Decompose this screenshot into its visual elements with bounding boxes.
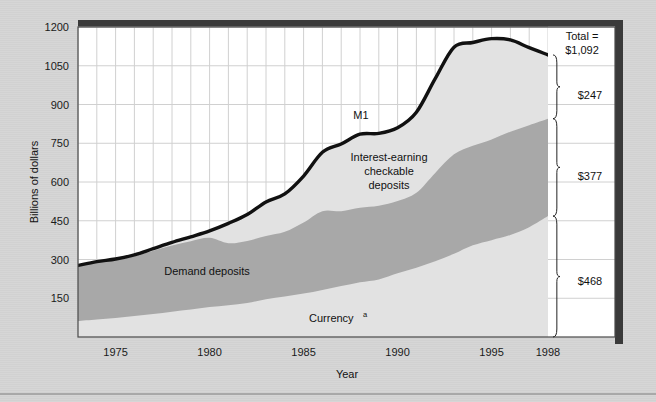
series-label-m1: M1 [353,109,368,121]
x-tick-1990: 1990 [385,346,409,358]
y-tick-150: 150 [51,292,69,304]
x-axis-title: Year [336,368,359,380]
callout-demand-deposits-value: $377 [578,170,602,182]
callout-interest-earning-value: $247 [578,89,602,101]
callout-total-label: Total = [566,30,599,42]
series-label-interest-earning-line2: checkable [364,165,414,177]
y-tick-450: 450 [51,215,69,227]
y-tick-1200: 1200 [45,21,69,33]
x-tick-1985: 1985 [291,346,315,358]
callout-currency-value: $468 [578,275,602,287]
y-tick-600: 600 [51,176,69,188]
m1-money-supply-stacked-area-chart: 15030045060075090010501200 1975198019851… [0,0,656,402]
y-axis-title: Billions of dollars [28,140,40,223]
x-tick-1998: 1998 [536,346,560,358]
y-tick-300: 300 [51,254,69,266]
figure-container: 15030045060075090010501200 1975198019851… [0,0,656,402]
series-label-interest-earning-line1: Interest-earning [350,151,427,163]
x-tick-1980: 1980 [197,346,221,358]
x-tick-1975: 1975 [103,346,127,358]
y-tick-750: 750 [51,137,69,149]
y-tick-900: 900 [51,99,69,111]
series-label-interest-earning-line3: deposits [369,179,410,191]
series-label-demand-deposits: Demand deposits [164,265,250,277]
x-tick-1995: 1995 [479,346,503,358]
x-axis-tick-labels: 197519801985199019951998 [103,346,560,358]
callout-total-value: $1,092 [565,44,599,56]
y-tick-1050: 1050 [45,60,69,72]
series-label-currency: Currency [309,312,354,324]
y-axis-tick-labels: 15030045060075090010501200 [45,21,69,304]
